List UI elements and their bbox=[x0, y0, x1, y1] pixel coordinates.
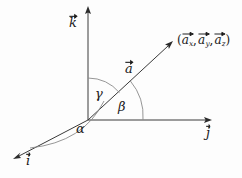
j-axis-label-text: j bbox=[206, 125, 210, 140]
angle-alpha-label: α bbox=[76, 122, 85, 135]
coord-x-base: a bbox=[182, 33, 189, 47]
coord-x-subscript: x bbox=[189, 39, 193, 48]
k-axis-label-text: k bbox=[69, 15, 77, 30]
vector-a-label-glyph: a bbox=[125, 62, 133, 75]
i-axis-label: i bbox=[26, 154, 30, 167]
coord-z-base: a bbox=[214, 33, 221, 47]
coord-close-paren: ) bbox=[226, 33, 231, 47]
coord-separator-1: , bbox=[193, 33, 197, 47]
diagram-canvas bbox=[0, 0, 242, 178]
coord-component-y: ay bbox=[198, 34, 209, 46]
coord-separator-2: , bbox=[209, 33, 213, 47]
coord-component-x: ax bbox=[182, 34, 193, 46]
i-axis-label-glyph: i bbox=[26, 154, 30, 167]
angle-beta-arc bbox=[130, 81, 143, 120]
vector-a-endpoint-label: ( ax , ay , az ) bbox=[177, 34, 230, 46]
coord-component-z: az bbox=[214, 34, 225, 46]
angle-beta-label: β bbox=[118, 100, 126, 113]
j-axis-label-glyph: j bbox=[206, 126, 210, 139]
j-axis-group bbox=[88, 117, 212, 123]
k-axis-group bbox=[85, 6, 91, 120]
coord-z-subscript: z bbox=[222, 39, 226, 48]
vector-a-label: a bbox=[125, 62, 133, 75]
k-axis-label-glyph: k bbox=[69, 16, 77, 29]
j-axis-label: j bbox=[206, 126, 210, 139]
vector-a-group bbox=[88, 41, 173, 120]
vector-a-label-text: a bbox=[125, 61, 133, 76]
i-axis-label-text: i bbox=[26, 153, 30, 168]
angle-gamma-label: γ bbox=[95, 87, 103, 100]
angle-alpha-arc bbox=[30, 101, 104, 148]
k-axis-label: k bbox=[69, 16, 77, 29]
coord-y-subscript: y bbox=[205, 39, 209, 48]
angle-gamma-arc bbox=[88, 78, 120, 93]
vector-diagram-figure: k j i bbox=[0, 0, 242, 178]
